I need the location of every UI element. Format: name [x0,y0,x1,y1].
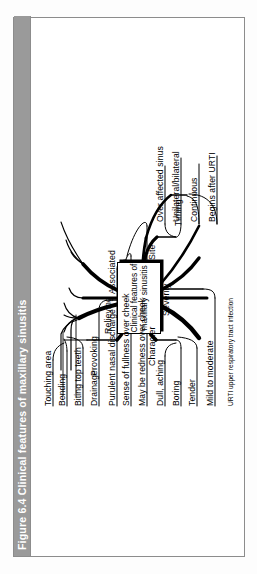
branch-label-severity: Severity [161,283,171,316]
leaf-label-mild-to-moderate: Mild to moderate [205,340,215,406]
branch-label-relieving: Relieving [103,297,113,334]
figure-footnote: URTI upper respiratory tract infection [227,298,234,406]
leaf-label-bending: Bending [57,374,67,406]
leaf-label-boring: Boring [171,381,181,406]
rotated-figure-wrapper: Figure 6.4 Clinical features of maxillar… [0,0,257,574]
figure-page: Figure 6.4 Clinical features of maxillar… [0,0,257,574]
figure-title-text: Figure 6.4 Clinical features of maxillar… [16,299,28,550]
leaf-label-over-affected-sinus: Over affected sinus [155,146,165,222]
branch-label-associated: Associated [107,250,117,294]
leaf-label-touching-area: Touching area [43,351,53,406]
branch-label-site: Site [147,244,157,260]
leaf-label-may-be-redness-over-cheek: May be redness over cheek [137,298,147,406]
leaf-label-dull-aching: Dull, aching [155,360,165,406]
figure-title-bar: Figure 6.4 Clinical features of maxillar… [14,16,31,556]
leaf-label-begins-after-urti: Begins after URTI [207,152,217,222]
leaf-label-tender: Tender [187,379,197,406]
branch-label-provoking: Provoking [89,336,99,376]
branch-label-character: Character [147,326,157,366]
leaf-label-sense-of-fullness-over-cheek: Sense of fullness over cheek [121,293,131,406]
leaf-label-biting-top-teeth: Biting top teeth [73,347,83,406]
figure-frame: Figure 6.4 Clinical features of maxillar… [13,17,245,557]
branch-label-timing: Timing [173,199,183,226]
figure-canvas: Clinical features of maxillary sinusitis… [31,18,244,556]
leaf-label-continuous: Continuous [189,178,199,222]
